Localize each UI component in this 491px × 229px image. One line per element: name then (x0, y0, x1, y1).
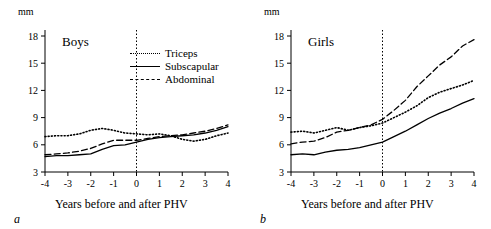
x-tick-label: 4 (226, 178, 231, 189)
x-tick-label: -2 (333, 178, 341, 189)
y-tick-label: 18 (274, 31, 284, 42)
y-tick-label: 15 (274, 58, 284, 69)
x-tick-label: -2 (87, 178, 95, 189)
x-tick-label: 0 (380, 178, 385, 189)
legend-item-triceps: Triceps (130, 47, 219, 60)
panel-boys: mm Boys Triceps Subscapular Abdominal 36… (0, 0, 245, 229)
x-tick-label: 1 (403, 178, 408, 189)
figure-letter-a: a (14, 212, 20, 227)
legend-label-abdominal: Abdominal (165, 73, 215, 86)
legend: Triceps Subscapular Abdominal (130, 47, 219, 86)
x-tick-label: 3 (203, 178, 208, 189)
y-tick-label: 3 (279, 167, 284, 178)
legend-label-subscapular: Subscapular (165, 60, 219, 73)
x-tick-label: 3 (449, 178, 454, 189)
y-tick-label: 15 (28, 58, 38, 69)
chart-svg-boys: 369121518-4-3-2-101234 (0, 0, 245, 229)
x-tick-label: -1 (355, 178, 363, 189)
y-tick-label: 6 (33, 139, 38, 150)
legend-key-triceps-icon (130, 53, 160, 54)
x-tick-label: 4 (472, 178, 477, 189)
panel-title-girls: Girls (308, 34, 334, 50)
x-tick-label: -4 (41, 178, 49, 189)
x-tick-label: 0 (134, 178, 139, 189)
y-tick-label: 12 (28, 85, 38, 96)
x-tick-label: -3 (64, 178, 72, 189)
y-tick-label: 18 (28, 31, 38, 42)
legend-item-subscapular: Subscapular (130, 60, 219, 73)
y-tick-label: 3 (33, 167, 38, 178)
x-tick-label: -4 (287, 178, 295, 189)
x-axis-title-b: Years before and after PHV (301, 197, 434, 212)
figure-letter-b: b (260, 212, 266, 227)
x-tick-label: 2 (180, 178, 185, 189)
panel-title-boys: Boys (62, 34, 89, 50)
legend-key-subscapular-icon (130, 66, 160, 67)
y-axis-unit-label-b: mm (264, 6, 280, 17)
chart-svg-girls: 369121518-4-3-2-101234 (246, 0, 491, 229)
x-tick-label: 1 (157, 178, 162, 189)
legend-key-abdominal-icon (130, 79, 160, 80)
panel-girls: mm Girls 369121518-4-3-2-101234 Years be… (246, 0, 491, 229)
legend-item-abdominal: Abdominal (130, 73, 219, 86)
y-tick-label: 12 (274, 85, 284, 96)
y-tick-label: 9 (33, 112, 38, 123)
x-tick-label: -1 (109, 178, 117, 189)
y-tick-label: 6 (279, 139, 284, 150)
y-axis-unit-label-a: mm (18, 6, 34, 17)
x-axis-title-a: Years before and after PHV (55, 197, 188, 212)
x-tick-label: -3 (310, 178, 318, 189)
legend-label-triceps: Triceps (165, 47, 198, 60)
y-tick-label: 9 (279, 112, 284, 123)
x-tick-label: 2 (426, 178, 431, 189)
